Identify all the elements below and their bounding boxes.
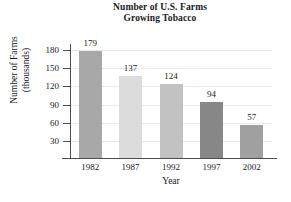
y-tick-label: 150 bbox=[35, 64, 59, 73]
y-axis-title-line-1: Number of Farms bbox=[8, 5, 20, 135]
y-tick-mark bbox=[63, 123, 70, 124]
y-tick-mark bbox=[63, 86, 70, 87]
bar bbox=[79, 51, 102, 159]
y-axis-title-line-2: (thousands) bbox=[20, 5, 32, 135]
bar-value-label: 124 bbox=[151, 72, 191, 81]
y-tick-label: 60 bbox=[35, 119, 59, 128]
plot-area bbox=[70, 44, 272, 159]
y-tick-label: 90 bbox=[35, 101, 59, 110]
y-tick-label: 180 bbox=[35, 46, 59, 55]
y-tick-label: 30 bbox=[35, 137, 59, 146]
y-axis-title: Number of Farms (thousands) bbox=[8, 5, 34, 135]
chart-title-line-1: Number of U.S. Farms bbox=[60, 2, 260, 13]
x-tick-label: 1992 bbox=[151, 162, 191, 172]
bar bbox=[160, 84, 183, 159]
x-axis-line bbox=[62, 158, 277, 159]
y-tick-mark bbox=[63, 105, 70, 106]
x-tick-label: 1987 bbox=[111, 162, 151, 172]
chart-title: Number of U.S. Farms Growing Tobacco bbox=[60, 2, 260, 24]
chart-figure: Number of U.S. Farms Growing Tobacco Num… bbox=[0, 0, 291, 202]
x-tick-label: 1997 bbox=[191, 162, 231, 172]
y-tick-mark bbox=[63, 68, 70, 69]
y-tick-mark bbox=[63, 50, 70, 51]
bar-value-label: 94 bbox=[191, 90, 231, 99]
bar bbox=[240, 125, 263, 160]
bar bbox=[119, 76, 142, 159]
x-tick-label: 1982 bbox=[70, 162, 110, 172]
y-axis-line bbox=[70, 44, 71, 159]
bar-value-label: 57 bbox=[232, 113, 272, 122]
y-tick-label: 120 bbox=[35, 82, 59, 91]
y-tick-mark bbox=[63, 141, 70, 142]
x-tick-label: 2002 bbox=[232, 162, 272, 172]
chart-title-line-2: Growing Tobacco bbox=[60, 13, 260, 24]
bar bbox=[200, 102, 223, 159]
x-axis-title: Year bbox=[70, 176, 272, 186]
bar-value-label: 137 bbox=[111, 64, 151, 73]
bar-value-label: 179 bbox=[70, 39, 110, 48]
